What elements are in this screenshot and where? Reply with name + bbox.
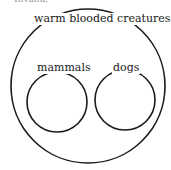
euler-diagram: [0, 0, 171, 170]
mammals-circle: [27, 72, 87, 132]
dogs-circle: [95, 70, 155, 130]
dogs-label: dogs: [112, 62, 140, 74]
warm-blooded-creatures-label: warm blooded creatures: [33, 13, 171, 25]
warm-blooded-creatures-circle: [11, 9, 165, 163]
mammals-label: mammals: [36, 62, 92, 74]
